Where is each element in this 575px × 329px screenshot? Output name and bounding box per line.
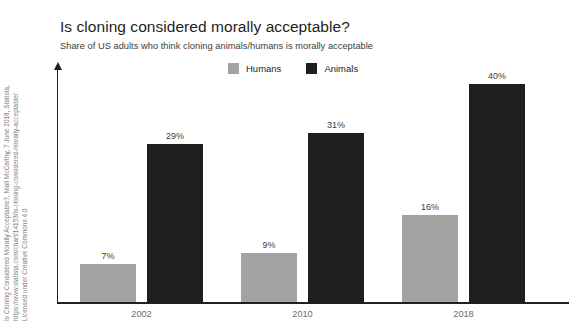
bar-value-label: 31% [308, 120, 364, 130]
source-line: Licensed under Creative Commons 4.0 [21, 208, 28, 321]
bar-value-label: 9% [241, 240, 297, 250]
x-tick-label-2018: 2018 [402, 309, 525, 319]
source-line: https://www.statista.com/chart/14153/is-… [12, 93, 19, 321]
x-tick-label-2010: 2010 [241, 309, 364, 319]
plot-area: 7%29%9%31%16%40% 200220102018 [57, 62, 569, 303]
bar-animals-2010 [308, 133, 364, 302]
bar-humans-2018 [402, 215, 458, 302]
source-line: Is Cloning Considered Morally Acceptable… [3, 85, 10, 321]
source-attribution: Is Cloning Considered Morally Acceptable… [0, 0, 50, 329]
bar-value-label: 40% [469, 71, 525, 81]
bar-animals-2018 [469, 84, 525, 302]
bar-value-label: 29% [147, 131, 203, 141]
chart-subtitle: Share of US adults who think cloning ani… [60, 41, 373, 51]
bar-humans-2010 [241, 253, 297, 302]
bar-animals-2002 [147, 144, 203, 302]
bar-value-label: 16% [402, 202, 458, 212]
x-tick-label-2002: 2002 [80, 309, 203, 319]
bar-value-label: 7% [80, 251, 136, 261]
bars-layer: 7%29%9%31%16%40% [57, 62, 569, 302]
x-axis-line [57, 302, 569, 304]
chart-page: Is Cloning Considered Morally Acceptable… [0, 0, 575, 329]
chart-title: Is cloning considered morally acceptable… [60, 18, 350, 36]
bar-humans-2002 [80, 264, 136, 302]
